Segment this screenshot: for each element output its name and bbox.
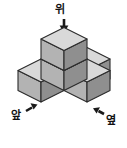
view-label-top: 위: [55, 4, 65, 15]
arrow-left-icon: [93, 107, 104, 114]
view-label-side: 옆: [106, 115, 116, 126]
arrow-right-icon: [26, 103, 38, 111]
view-label-front: 앞: [11, 110, 21, 121]
figure-canvas: 위 앞 옆: [0, 0, 127, 148]
